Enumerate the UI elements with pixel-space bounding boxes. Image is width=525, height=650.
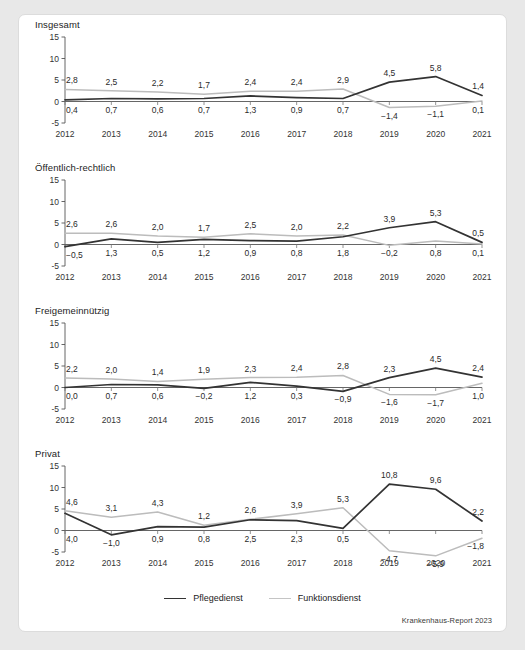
- x-axis-tick-label: 2020: [426, 129, 445, 139]
- data-point-label: 2,0: [152, 222, 164, 232]
- chart-panel: Öffentlich-rechtlich 151050-520122013201…: [19, 158, 506, 301]
- data-point-label: 1,2: [244, 391, 256, 401]
- data-point-label: 2,0: [291, 222, 303, 232]
- x-axis-tick-label: 2016: [241, 129, 260, 139]
- data-point-label: 2,2: [472, 507, 484, 517]
- x-axis-tick-label: 2018: [334, 272, 353, 282]
- legend-label: Funktionsdienst: [298, 593, 361, 603]
- data-point-label: 1,9: [198, 365, 210, 375]
- y-axis-tick-label: 10: [50, 340, 60, 350]
- panel-title: Privat: [35, 448, 60, 459]
- data-point-label: 0,5: [337, 534, 349, 544]
- data-point-label: 4,0: [66, 534, 78, 544]
- x-axis-tick-label: 2013: [102, 558, 121, 568]
- data-point-label: 0,8: [430, 248, 442, 258]
- x-axis-tick-label: 2012: [56, 129, 75, 139]
- chart-panel: Insgesamt 151050-52012201320142015201620…: [19, 15, 506, 158]
- data-point-label: 0,6: [152, 391, 164, 401]
- y-axis-tick-label: 0: [54, 526, 59, 536]
- plot-area: 151050-520122013201420152016201720182019…: [35, 462, 490, 570]
- y-axis-tick-label: 15: [50, 318, 60, 328]
- x-axis-tick-label: 2017: [287, 415, 306, 425]
- panel-title: Öffentlich-rechtlich: [35, 162, 116, 173]
- plot-area: 151050-520122013201420152016201720182019…: [35, 33, 490, 141]
- data-point-label: 2,4: [291, 363, 303, 373]
- data-point-label: 1,4: [152, 367, 164, 377]
- chart-legend: Pflegedienst Funktionsdienst: [19, 593, 506, 603]
- data-point-label: −0,2: [381, 248, 398, 258]
- y-axis-tick-label: 5: [54, 361, 59, 371]
- legend-item-pflegedienst[interactable]: Pflegedienst: [164, 593, 243, 603]
- data-point-label: 2,2: [337, 221, 349, 231]
- x-axis-tick-label: 2018: [334, 129, 353, 139]
- y-axis-tick-label: 15: [50, 175, 60, 185]
- x-axis-tick-label: 2021: [473, 272, 492, 282]
- data-point-label: 2,3: [244, 364, 256, 374]
- data-point-label: 2,8: [337, 361, 349, 371]
- x-axis-tick-label: 2013: [102, 129, 121, 139]
- data-point-label: 1,7: [198, 223, 210, 233]
- x-axis-tick-label: 2017: [287, 272, 306, 282]
- panel-title: Freigemeinnützig: [35, 305, 109, 316]
- data-point-label: −0,9: [335, 394, 352, 404]
- x-axis-tick-label: 2016: [241, 415, 260, 425]
- series-line-pflegedienst: [65, 484, 482, 535]
- data-point-label: 4,3: [152, 498, 164, 508]
- data-point-label: −1,7: [427, 398, 444, 408]
- x-axis-tick-label: 2017: [287, 129, 306, 139]
- x-axis-tick-label: 2012: [56, 558, 75, 568]
- data-point-label: 2,4: [244, 77, 256, 87]
- x-axis-tick-label: 2015: [195, 415, 214, 425]
- y-axis-tick-label: 5: [54, 504, 59, 514]
- data-point-label: 0,9: [244, 248, 256, 258]
- legend-item-funktionsdienst[interactable]: Funktionsdienst: [269, 593, 361, 603]
- x-axis-tick-label: 2013: [102, 415, 121, 425]
- data-point-label: 1,2: [198, 248, 210, 258]
- x-axis-tick-label: 2016: [241, 272, 260, 282]
- data-point-label: 5,3: [337, 494, 349, 504]
- data-point-label: 0,7: [105, 105, 117, 115]
- data-point-label: 2,4: [291, 77, 303, 87]
- x-axis-tick-label: 2019: [380, 272, 399, 282]
- data-point-label: 0,8: [291, 248, 303, 258]
- x-axis-tick-label: 2017: [287, 558, 306, 568]
- data-point-label: 1,8: [337, 248, 349, 258]
- data-point-label: 4,5: [383, 68, 395, 78]
- data-point-label: 3,1: [105, 503, 117, 513]
- x-axis-tick-label: 2021: [473, 415, 492, 425]
- data-point-label: 2,2: [152, 78, 164, 88]
- x-axis-tick-label: 2012: [56, 272, 75, 282]
- data-point-label: −1,4: [381, 111, 398, 121]
- data-point-label: 0,9: [152, 534, 164, 544]
- data-point-label: −1,1: [427, 109, 444, 119]
- y-axis-tick-label: -5: [51, 118, 59, 128]
- y-axis-tick-label: -5: [51, 261, 59, 271]
- data-point-label: 4,5: [430, 354, 442, 364]
- x-axis-tick-label: 2021: [473, 129, 492, 139]
- x-axis-tick-label: 2018: [334, 558, 353, 568]
- data-point-label: 2,5: [244, 534, 256, 544]
- x-axis-tick-label: 2021: [473, 558, 492, 568]
- data-point-label: −1,0: [103, 538, 120, 548]
- data-point-label: 0,7: [337, 105, 349, 115]
- plot-area: 151050-520122013201420152016201720182019…: [35, 319, 490, 427]
- data-point-label: 2,2: [66, 364, 78, 374]
- x-axis-tick-label: 2012: [56, 415, 75, 425]
- x-axis-tick-label: 2020: [426, 415, 445, 425]
- x-axis-tick-label: 2015: [195, 558, 214, 568]
- data-point-label: 1,7: [198, 80, 210, 90]
- panel-title: Insgesamt: [35, 19, 80, 30]
- data-point-label: 2,3: [383, 364, 395, 374]
- data-point-label: 2,6: [105, 219, 117, 229]
- y-axis-tick-label: 15: [50, 461, 60, 471]
- data-point-label: 0,3: [291, 391, 303, 401]
- x-axis-tick-label: 2014: [148, 129, 167, 139]
- data-point-label: 2,9: [337, 75, 349, 85]
- legend-line-swatch-pflegedienst: [164, 598, 186, 599]
- data-point-label: 9,6: [430, 475, 442, 485]
- y-axis-tick-label: 10: [50, 54, 60, 64]
- data-point-label: 0,1: [472, 105, 484, 115]
- data-point-label: 2,5: [105, 77, 117, 87]
- x-axis-tick-label: 2019: [380, 129, 399, 139]
- y-axis-tick-label: 5: [54, 218, 59, 228]
